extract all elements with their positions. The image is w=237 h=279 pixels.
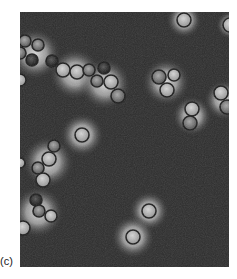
film-grain — [20, 12, 229, 267]
cell-image — [20, 12, 229, 267]
panel-label: (c) — [0, 255, 13, 267]
phase-contrast-micrograph — [20, 12, 229, 267]
micrograph-figure: (c) — [0, 0, 237, 279]
